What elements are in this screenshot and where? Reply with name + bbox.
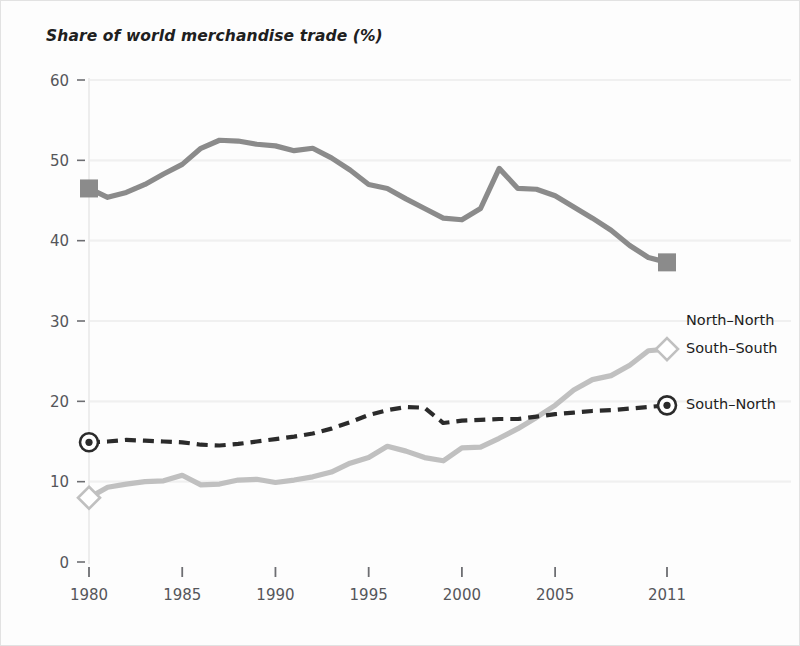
series-marker-2 — [658, 396, 676, 414]
series-marker-2 — [80, 433, 98, 451]
data-markers-layer — [78, 179, 678, 508]
y-tick-label: 0 — [59, 554, 69, 572]
x-tick-label: 1995 — [350, 586, 388, 604]
y-tick-label: 40 — [50, 232, 69, 250]
y-tick-label: 30 — [50, 313, 69, 331]
x-tick-label: 1990 — [256, 586, 294, 604]
x-axis-ticks: 1980198519901995200020052011 — [70, 567, 686, 604]
legend-label-2: South–North — [686, 396, 776, 412]
x-tick-label: 1980 — [70, 586, 108, 604]
y-tick-label: 60 — [50, 72, 69, 90]
legend-label-1: South–South — [686, 340, 778, 356]
series-marker-1 — [78, 487, 100, 509]
x-tick-label: 2000 — [443, 586, 481, 604]
y-tick-label: 50 — [50, 152, 69, 170]
series-line-0 — [89, 140, 667, 262]
y-tick-label: 10 — [50, 473, 69, 491]
series-marker-1 — [656, 338, 678, 360]
x-tick-label: 1985 — [163, 586, 201, 604]
series-marker-0 — [658, 253, 676, 271]
chart-figure: Share of world merchandise trade (%) 010… — [0, 0, 800, 646]
data-series-layer — [89, 140, 667, 497]
line-chart-plot: 0102030405060 19801985199019952000200520… — [1, 1, 800, 646]
legend-label-0: North–North — [686, 312, 774, 328]
chart-legend: North–NorthSouth–SouthSouth–North — [686, 312, 778, 412]
y-tick-label: 20 — [50, 393, 69, 411]
x-tick-label: 2005 — [536, 586, 574, 604]
series-marker-0 — [80, 179, 98, 197]
series-line-2 — [89, 405, 667, 445]
series-line-1 — [89, 349, 667, 498]
x-tick-label: 2011 — [648, 586, 686, 604]
